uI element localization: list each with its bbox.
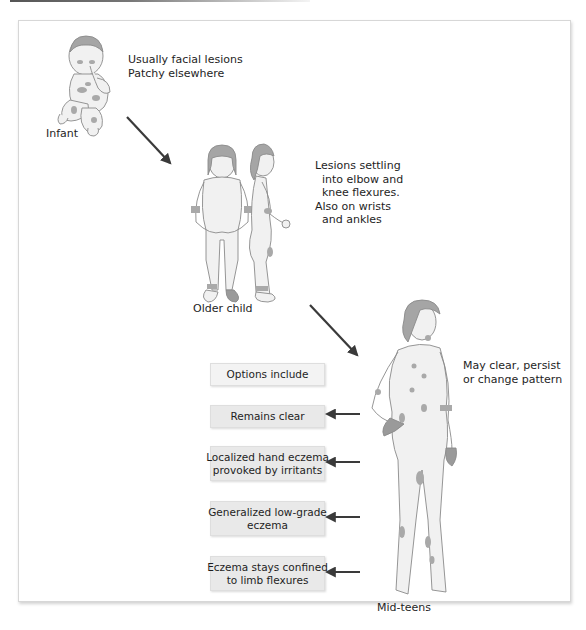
option-confined-to-flexures: Eczema stays confined to limb flexures [210,556,325,591]
older-child-label: Older child [193,302,253,316]
options-header-box: Options include [210,363,325,386]
mid-teens-label: Mid-teens [377,601,431,615]
infant-label: Infant [46,127,78,141]
older-child-side-figure [249,144,290,302]
older-child-front-figure [191,145,253,302]
infant-description: Usually facial lesions Patchy elsewhere [128,53,243,80]
option-generalized-low-grade: Generalized low-grade eczema [210,501,325,536]
option-remains-clear: Remains clear [210,405,325,428]
infant-figure [58,36,110,136]
option-localized-hand-eczema: Localized hand eczema provoked by irrita… [210,446,325,481]
mid-teens-description: May clear, persist or change pattern [463,359,562,386]
older-child-description: Lesions settling into elbow and knee fle… [315,159,403,227]
mid-teens-figure [372,300,457,594]
